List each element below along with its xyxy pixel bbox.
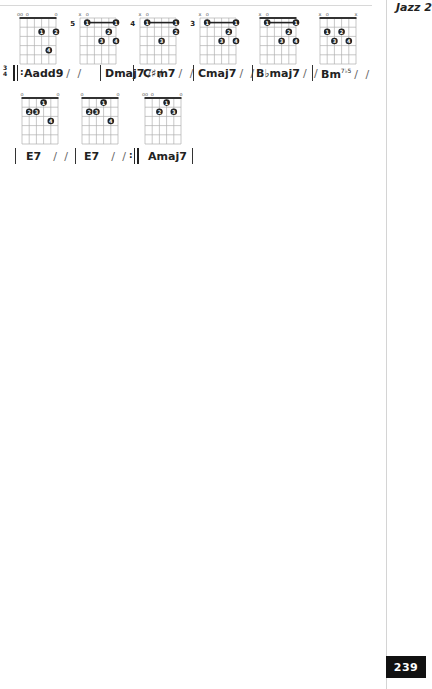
chord-symbol: Cmaj7 xyxy=(198,67,236,80)
svg-text:5: 5 xyxy=(70,20,75,28)
svg-text:4: 4 xyxy=(114,38,118,44)
svg-text:o: o xyxy=(80,91,83,97)
svg-text:1: 1 xyxy=(85,20,89,26)
measure: Amaj7 xyxy=(148,150,187,163)
svg-text:2: 2 xyxy=(287,29,291,35)
barline xyxy=(193,65,194,81)
svg-text:x: x xyxy=(319,11,322,17)
barline xyxy=(312,65,313,81)
svg-text:o: o xyxy=(26,11,29,17)
measure: C♯m7/ / xyxy=(143,67,195,80)
svg-text:oo: oo xyxy=(17,11,23,17)
beat-slashes: / / xyxy=(111,150,128,163)
svg-text:oo: oo xyxy=(142,91,148,97)
svg-text:3: 3 xyxy=(100,38,104,44)
measure: B♭maj7/ / xyxy=(256,67,320,80)
svg-text:3: 3 xyxy=(172,109,176,115)
progression-line-2: E7/ / E7/ / : Amaj7 xyxy=(0,150,372,164)
svg-text:1: 1 xyxy=(205,20,209,26)
top-rule xyxy=(0,5,372,6)
svg-text:o: o xyxy=(116,91,119,97)
barline xyxy=(133,65,134,81)
chord-superscript: 7♭5 xyxy=(341,67,351,74)
beat-slashes: / / xyxy=(239,67,256,80)
svg-text:2: 2 xyxy=(107,29,111,35)
measure: E7/ / xyxy=(26,150,70,163)
measure: Aadd9/ / xyxy=(24,67,83,80)
chord-diagram-bm7-5: xox1234 xyxy=(312,10,362,68)
measure: Cmaj7/ / xyxy=(198,67,256,80)
measure: E7/ / xyxy=(84,150,128,163)
svg-text:2: 2 xyxy=(174,29,178,35)
beat-slashes: / / xyxy=(53,150,70,163)
chord-diagram-e7: oo1234 xyxy=(74,90,124,148)
barline xyxy=(75,148,76,164)
svg-text:1: 1 xyxy=(114,20,118,26)
svg-text:x: x xyxy=(199,11,202,17)
page-number-tab: 239 xyxy=(386,656,426,678)
chord-symbol: Aadd9 xyxy=(24,67,63,80)
chord-symbol: Amaj7 xyxy=(148,150,187,163)
svg-text:1: 1 xyxy=(145,20,149,26)
chord-diagram-cmaj7: 3xo11234 xyxy=(192,10,242,68)
chord-symbol: Dmaj7 xyxy=(105,67,144,80)
chord-diagram-amaj7: oooo123 xyxy=(137,90,187,148)
chord-symbol: E7 xyxy=(84,150,99,163)
svg-text:1: 1 xyxy=(40,29,44,35)
svg-text:o: o xyxy=(86,11,89,17)
svg-text:2: 2 xyxy=(158,109,162,115)
chord-symbol: C♯m7 xyxy=(143,67,176,80)
chord-diagram-dmaj7: 5xo11234 xyxy=(72,10,122,68)
chord-diagram-c-m7: 4xo1123 xyxy=(132,10,182,68)
svg-text:3: 3 xyxy=(35,109,39,115)
svg-text:x: x xyxy=(139,11,142,17)
svg-text:x: x xyxy=(259,11,262,17)
svg-text:2: 2 xyxy=(227,29,231,35)
chord-symbol: E7 xyxy=(26,150,41,163)
svg-text:3: 3 xyxy=(333,38,337,44)
time-signature: 3 4 xyxy=(3,65,7,77)
svg-text:3: 3 xyxy=(280,38,284,44)
svg-text:o: o xyxy=(20,91,23,97)
svg-text:2: 2 xyxy=(27,109,31,115)
svg-text:3: 3 xyxy=(160,38,164,44)
chord-diagram-b-maj7: xo11234 xyxy=(252,10,302,68)
page-number: 239 xyxy=(394,661,418,674)
svg-text:4: 4 xyxy=(49,118,53,124)
svg-text:2: 2 xyxy=(54,29,58,35)
svg-text:3: 3 xyxy=(190,20,195,28)
svg-text:o: o xyxy=(146,11,149,17)
chord-diagram-aadd9: oooo124 xyxy=(12,10,62,68)
chord-diagram-e7: oo1234 xyxy=(14,90,64,148)
svg-text:1: 1 xyxy=(265,20,269,26)
svg-text:4: 4 xyxy=(130,20,135,28)
beat-slashes: / / xyxy=(354,68,371,81)
margin-rule xyxy=(386,0,387,689)
svg-text:o: o xyxy=(56,91,59,97)
svg-text:1: 1 xyxy=(234,20,238,26)
beat-slashes: / / xyxy=(66,67,83,80)
svg-text:x: x xyxy=(355,11,358,17)
barline xyxy=(192,148,193,164)
svg-text:1: 1 xyxy=(174,20,178,26)
svg-text:o: o xyxy=(54,11,57,17)
measure: Bm7♭5/ / xyxy=(321,67,371,81)
svg-text:o: o xyxy=(206,11,209,17)
svg-text:x: x xyxy=(79,11,82,17)
barline xyxy=(15,148,16,164)
svg-text:1: 1 xyxy=(42,100,46,106)
svg-text:o: o xyxy=(151,91,154,97)
svg-text:o: o xyxy=(179,91,182,97)
running-head: Jazz 2 xyxy=(396,1,432,14)
svg-text:1: 1 xyxy=(294,20,298,26)
svg-text:1: 1 xyxy=(165,100,169,106)
svg-text:3: 3 xyxy=(95,109,99,115)
chord-symbol: Bm xyxy=(321,68,341,81)
svg-text:2: 2 xyxy=(340,29,344,35)
chord-symbol: B♭maj7 xyxy=(256,67,300,80)
svg-text:1: 1 xyxy=(102,100,106,106)
svg-text:1: 1 xyxy=(325,29,329,35)
barline xyxy=(252,65,253,81)
svg-text:o: o xyxy=(266,11,269,17)
svg-text:4: 4 xyxy=(347,38,351,44)
